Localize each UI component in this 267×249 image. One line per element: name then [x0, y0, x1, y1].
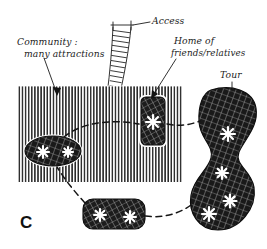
secondary-attraction-blob — [83, 199, 145, 229]
label-community-line1: Community : — [17, 36, 78, 47]
home-of-friends-relatives — [139, 95, 167, 147]
diagram-canvas: Access Community : many attractions Home… — [0, 0, 267, 249]
label-tour: Tour — [220, 69, 242, 80]
figure-letter: C — [20, 213, 32, 232]
figure-panel: Access Community : many attractions Home… — [0, 0, 267, 249]
label-community-line2: many attractions — [24, 48, 105, 59]
label-access: Access — [151, 15, 185, 26]
attraction-asterisk — [146, 115, 160, 129]
label-home-line2: friends/relatives — [170, 48, 246, 58]
attraction-cluster-ellipse — [24, 135, 83, 168]
label-home-line1: Home of — [173, 35, 216, 46]
tour-destination-blob — [190, 88, 256, 230]
